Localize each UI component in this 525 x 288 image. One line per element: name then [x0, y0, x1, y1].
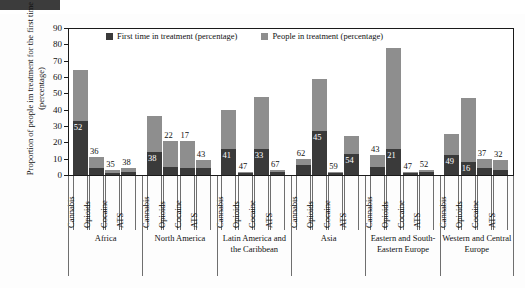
region-separator — [142, 176, 143, 276]
bar-value-label: 43 — [197, 149, 206, 159]
bar — [163, 141, 178, 175]
y-axis-tick-label: 80 — [22, 39, 62, 49]
bar-value-label: 37 — [478, 148, 487, 158]
bar — [419, 170, 434, 175]
region-separator — [217, 176, 218, 276]
y-axis-tick-label: 10 — [22, 154, 62, 164]
bar-segment-people-in-treatment — [461, 98, 476, 162]
bar-value-label: 41 — [222, 150, 231, 160]
category-axis-label: ATS — [115, 213, 125, 228]
bar-segment-first-time — [180, 168, 195, 175]
bar-segment-people-in-treatment — [89, 157, 104, 168]
bar-value-label: 62 — [297, 148, 306, 158]
bar-segment-first-time — [493, 170, 508, 175]
bar-value-label: 67 — [271, 159, 280, 169]
chart-page: Proportion of people im treatment for th… — [0, 0, 525, 288]
bar-series-container: 5236353838221743414733676245595443214752… — [68, 28, 514, 175]
bar-segment-first-time — [328, 173, 343, 175]
bar — [147, 116, 162, 175]
category-axis-label: Cocaine — [99, 200, 109, 228]
bar-segment-first-time — [89, 168, 104, 175]
bar — [296, 159, 311, 175]
category-axis-cell: ATS — [270, 176, 285, 230]
bar-segment-first-time — [296, 165, 311, 175]
category-axis-label: Opioids — [380, 201, 390, 228]
bar — [370, 155, 385, 175]
bar-segment-first-time — [419, 172, 434, 175]
category-axis-label: ATS — [264, 213, 274, 228]
bar-segment-people-in-treatment — [221, 110, 236, 149]
bar — [328, 172, 343, 175]
bar-segment-first-time — [370, 167, 385, 175]
bar — [403, 172, 418, 175]
region-axis-label: Western and Central Europe — [440, 231, 514, 276]
bar-segment-people-in-treatment — [477, 159, 492, 169]
bar-segment-people-in-treatment — [386, 48, 401, 149]
category-axis-label: ATS — [189, 213, 199, 228]
category-axis-cell: ATS — [196, 176, 211, 230]
region-separator — [365, 176, 366, 276]
y-axis-tick-label: 40 — [22, 105, 62, 115]
bar-segment-people-in-treatment — [73, 70, 88, 121]
bar-segment-first-time — [105, 173, 120, 175]
bar — [270, 170, 285, 175]
bar-value-label: 52 — [74, 122, 83, 132]
bar-segment-first-time — [196, 168, 211, 175]
bar-value-label: 49 — [445, 156, 454, 166]
bar-value-label: 45 — [313, 132, 322, 142]
category-axis-cell: ATS — [344, 176, 359, 230]
region-axis-label: Africa — [68, 231, 142, 276]
bar-value-label: 33 — [255, 150, 264, 160]
region-separator — [440, 176, 441, 276]
bar-segment-people-in-treatment — [196, 160, 211, 168]
bar — [493, 160, 508, 175]
region-axis-label: Latin America and the Caribbean — [217, 231, 291, 276]
bar — [444, 134, 459, 175]
category-axis-label: Cocaine — [470, 200, 480, 228]
bar — [89, 157, 104, 175]
bar — [221, 110, 236, 175]
bar-value-label: 43 — [371, 144, 380, 154]
bar — [121, 168, 136, 175]
y-axis-tick-label: 90 — [22, 23, 62, 33]
bar — [254, 97, 269, 175]
category-axis-cell: ATS — [493, 176, 508, 230]
y-axis-tick-label: 60 — [22, 72, 62, 82]
y-axis-tick-label: 0 — [22, 170, 62, 180]
bar-value-label: 22 — [164, 130, 173, 140]
category-axis-label: Cocaine — [396, 200, 406, 228]
bar-value-label: 35 — [106, 159, 115, 169]
bar-segment-people-in-treatment — [493, 160, 508, 170]
category-axis-label: Opioids — [454, 201, 464, 228]
bar-segment-people-in-treatment — [312, 79, 327, 131]
bar — [105, 170, 120, 175]
category-axis-label: Cocaine — [247, 200, 257, 228]
bar-value-label: 47 — [404, 161, 413, 171]
category-axis-label: Opioids — [157, 201, 167, 228]
region-separator — [513, 176, 514, 276]
y-axis-tick-label: 30 — [22, 121, 62, 131]
bar-segment-people-in-treatment — [344, 136, 359, 154]
bar-segment-first-time — [163, 167, 178, 175]
bar-segment-first-time — [270, 172, 285, 175]
category-axis-label: Opioids — [231, 201, 241, 228]
bar-value-label: 16 — [462, 163, 471, 173]
bar — [180, 141, 195, 175]
category-axis-label: ATS — [487, 213, 497, 228]
category-axis-label: Opioids — [305, 201, 315, 228]
bar-segment-people-in-treatment — [370, 155, 385, 166]
y-axis-tick-label: 20 — [22, 137, 62, 147]
bar-value-label: 38 — [122, 157, 131, 167]
bar-value-label: 38 — [148, 153, 157, 163]
top-decoration-bar — [0, 0, 525, 14]
bar-value-label: 59 — [329, 161, 338, 171]
bar-segment-people-in-treatment — [254, 97, 269, 149]
category-axis-label: Opioids — [82, 201, 92, 228]
bar-segment-first-time — [403, 173, 418, 175]
category-axis-label: ATS — [412, 213, 422, 228]
bar-segment-people-in-treatment — [444, 134, 459, 155]
category-axis-label: Cocaine — [173, 200, 183, 228]
bar-segment-people-in-treatment — [147, 116, 162, 152]
bar-value-label: 47 — [239, 161, 248, 171]
bar-value-label: 17 — [181, 130, 190, 140]
